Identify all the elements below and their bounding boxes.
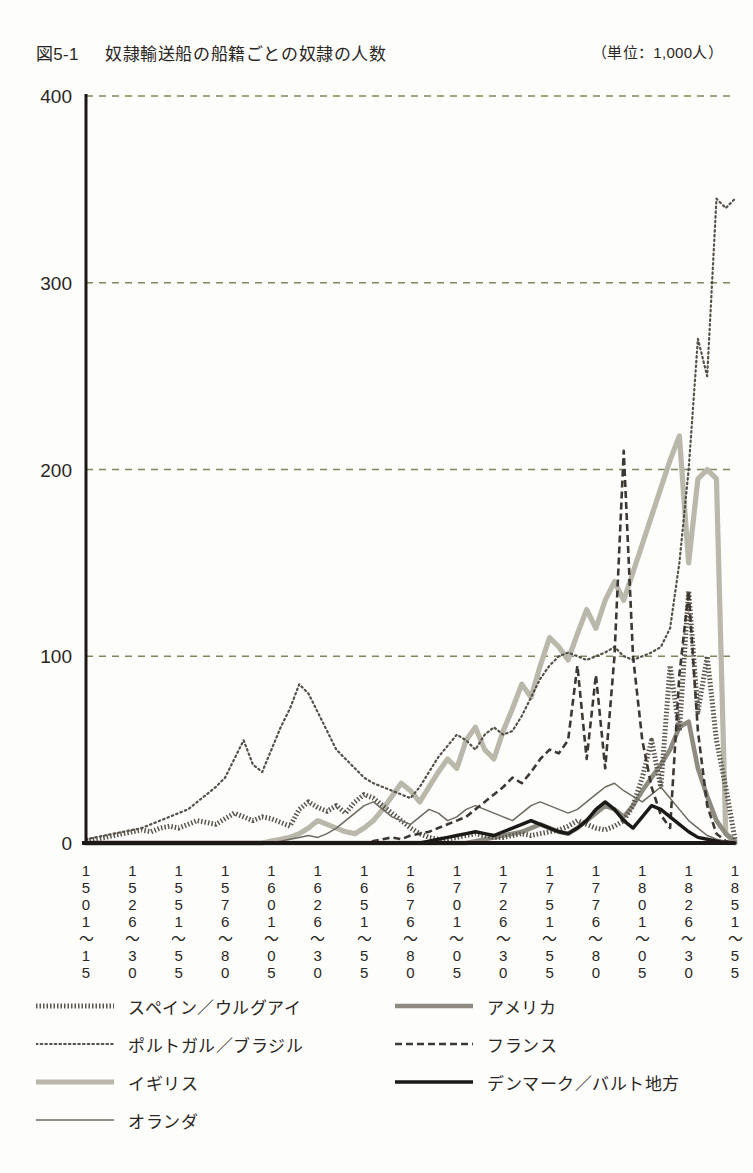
figure-header: 図5-1 奴隷輸送船の船籍ごとの奴隷の人数 （単位：1,000人）	[0, 40, 753, 70]
line-chart-svg: 0100200300400	[0, 80, 753, 870]
x-tick-label-char: 5	[353, 896, 375, 913]
legend-line-swatch	[395, 999, 473, 1013]
y-tick-label: 200	[40, 460, 72, 481]
x-tick-label-char: 3	[121, 947, 143, 964]
x-tick-label-char: 1	[492, 862, 514, 879]
legend-item[interactable]: フランス	[395, 1029, 557, 1059]
x-tick-label-char: 0	[121, 964, 143, 981]
x-tick-label-char: 0	[75, 896, 97, 913]
x-tick-label-char: 〜	[724, 930, 746, 947]
x-tick-label-char: 1	[539, 862, 561, 879]
legend-item[interactable]: アメリカ	[395, 991, 556, 1021]
x-tick-label-char: 〜	[585, 930, 607, 947]
x-tick-label-char: 6	[214, 913, 236, 930]
series-lines	[86, 199, 735, 843]
legend-item[interactable]: デンマーク／バルト地方	[395, 1067, 680, 1097]
x-tick-label-char: 1	[446, 913, 468, 930]
legend-label: デンマーク／バルト地方	[487, 1070, 680, 1095]
x-tick-label-char: 1	[353, 913, 375, 930]
legend-line-swatch	[36, 1075, 114, 1089]
x-tick-label-char: 5	[121, 879, 143, 896]
x-tick-label-char: 8	[631, 879, 653, 896]
x-tick-label-char: 1	[353, 862, 375, 879]
x-tick-label-char: 7	[539, 879, 561, 896]
x-tick-label-char: 7	[214, 896, 236, 913]
x-tick-label: 1651〜55	[353, 862, 375, 981]
x-tick-label-char: 1	[585, 862, 607, 879]
x-tick-label-char: 8	[214, 947, 236, 964]
x-tick-label-char: 1	[631, 913, 653, 930]
x-tick-label-char: 1	[75, 913, 97, 930]
x-tick-label-char: 3	[307, 947, 329, 964]
legend-item[interactable]: イギリス	[36, 1067, 198, 1097]
legend-label: フランス	[487, 1032, 557, 1057]
x-tick-label-char: 5	[724, 964, 746, 981]
x-tick-label-char: 5	[724, 947, 746, 964]
x-tick-label-char: 〜	[121, 930, 143, 947]
x-tick-label-char: 7	[585, 896, 607, 913]
y-axis-tick-labels: 0100200300400	[40, 86, 72, 854]
x-tick-label-char: 8	[585, 947, 607, 964]
x-tick-label-char: 8	[678, 879, 700, 896]
x-tick-label-char: 5	[168, 947, 190, 964]
legend-item[interactable]: オランダ	[36, 1105, 198, 1135]
x-tick-label: 1576〜80	[214, 862, 236, 981]
x-tick-label: 1701〜05	[446, 862, 468, 981]
x-tick-label-char: 1	[121, 862, 143, 879]
x-tick-label-char: 1	[260, 862, 282, 879]
x-tick-label-char: 1	[400, 862, 422, 879]
x-tick-label-char: 2	[678, 896, 700, 913]
x-tick-label-char: 1	[75, 947, 97, 964]
legend-line-swatch	[395, 1075, 473, 1089]
x-tick-label-char: 〜	[260, 930, 282, 947]
x-tick-label-char: 0	[492, 964, 514, 981]
x-tick-label-char: 1	[446, 862, 468, 879]
x-tick-label-char: 〜	[168, 930, 190, 947]
series-line	[86, 591, 735, 841]
figure-unit-note: （単位：1,000人）	[592, 41, 723, 62]
legend-item[interactable]: ポルトガル／ブラジル	[36, 1029, 303, 1059]
x-tick-label-char: 〜	[446, 930, 468, 947]
legend-label: アメリカ	[487, 994, 556, 1019]
x-tick-label-char: 6	[353, 879, 375, 896]
x-tick-label-char: 0	[446, 896, 468, 913]
x-tick-label-char: 0	[446, 947, 468, 964]
x-tick-label-char: 5	[353, 947, 375, 964]
x-tick-label-char: 〜	[492, 930, 514, 947]
figure-title: 奴隷輸送船の船籍ごとの奴隷の人数	[105, 40, 387, 65]
figure-container: 図5-1 奴隷輸送船の船籍ごとの奴隷の人数 （単位：1,000人） 010020…	[0, 0, 753, 1173]
legend-item[interactable]: スペイン／ウルグアイ	[36, 991, 301, 1021]
x-tick-label-char: 6	[400, 879, 422, 896]
x-tick-label-char: 5	[539, 947, 561, 964]
x-tick-label-char: 〜	[678, 930, 700, 947]
legend-line-swatch	[395, 1037, 473, 1051]
series-line	[86, 436, 735, 843]
x-tick-label: 1776〜80	[585, 862, 607, 981]
x-tick-label-char: 〜	[75, 930, 97, 947]
x-tick-label-char: 〜	[307, 930, 329, 947]
x-tick-label-char: 0	[260, 896, 282, 913]
x-tick-label: 1501〜15	[75, 862, 97, 981]
x-tick-label-char: 0	[400, 964, 422, 981]
x-tick-label-char: 1	[724, 862, 746, 879]
x-tick-label-char: 5	[631, 964, 653, 981]
x-tick-label-char: 0	[585, 964, 607, 981]
x-tick-label-char: 7	[492, 879, 514, 896]
x-tick-label-char: 0	[214, 964, 236, 981]
x-tick-label-char: 0	[631, 947, 653, 964]
x-tick-label-char: 6	[121, 913, 143, 930]
legend-label: イギリス	[128, 1070, 198, 1095]
x-tick-label-char: 〜	[353, 930, 375, 947]
x-tick-label-char: 5	[168, 879, 190, 896]
x-tick-label-char: 3	[678, 947, 700, 964]
legend-label: ポルトガル／ブラジル	[128, 1032, 303, 1057]
x-tick-label-char: 7	[446, 879, 468, 896]
y-tick-label: 0	[61, 833, 72, 854]
x-tick-label-char: 8	[400, 947, 422, 964]
x-tick-label-char: 6	[307, 913, 329, 930]
x-tick-label: 1851〜55	[724, 862, 746, 981]
x-tick-label-char: 6	[400, 913, 422, 930]
x-tick-label-char: 1	[75, 862, 97, 879]
y-gridlines	[86, 96, 735, 843]
x-tick-label-char: 7	[585, 879, 607, 896]
